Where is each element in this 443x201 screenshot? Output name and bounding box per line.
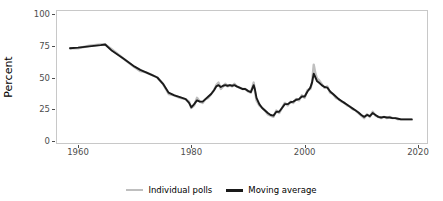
legend-item-individual-polls[interactable]: Individual polls: [126, 185, 212, 195]
legend-item-moving-average[interactable]: Moving average: [226, 185, 316, 195]
x-tick-label: 1980: [171, 148, 211, 157]
legend-label-moving-average: Moving average: [248, 185, 316, 195]
x-tick-mark: [78, 145, 79, 148]
chart-figure: Percent 0255075100 1960198020002020 Indi…: [0, 0, 443, 201]
x-tick-mark: [418, 145, 419, 148]
x-tick-label: 2020: [398, 148, 438, 157]
plot-lines: [57, 11, 427, 143]
x-tick-mark: [191, 145, 192, 148]
average-line-key-icon: [226, 189, 243, 192]
plot-panel: [56, 10, 428, 144]
x-tick-label: 2000: [285, 148, 325, 157]
individual-polls-line: [70, 44, 412, 119]
legend-label-individual-polls: Individual polls: [148, 185, 212, 195]
x-tick-label: 1960: [58, 148, 98, 157]
x-tick-mark: [305, 145, 306, 148]
chart-legend: Individual polls Moving average: [0, 182, 443, 198]
polls-line-key-icon: [126, 189, 143, 191]
